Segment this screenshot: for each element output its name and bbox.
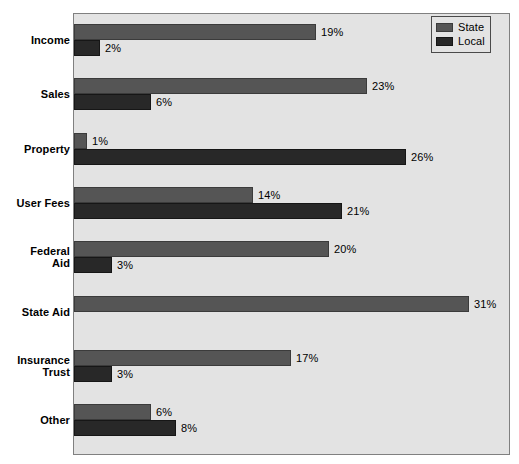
axis-label-line1: Other: [0, 414, 70, 426]
axis-label-line2: Aid: [0, 257, 70, 269]
bar-value-state-federal-aid: 20%: [334, 241, 356, 257]
axis-label-state-aid: State Aid: [0, 306, 70, 318]
legend-label-state: State: [458, 22, 484, 33]
bar-value-local-sales: 6%: [156, 94, 172, 110]
legend-item-local: Local: [436, 35, 485, 48]
bar-value-local-user-fees: 21%: [347, 203, 369, 219]
bar-state-user-fees: [74, 187, 253, 203]
axis-label-other: Other: [0, 414, 70, 426]
bar-state-other: [74, 404, 151, 420]
axis-label-property: Property: [0, 143, 70, 155]
bar-local-income: [74, 40, 100, 56]
bar-value-local-property: 26%: [411, 149, 433, 165]
axis-label-line2: Trust: [0, 366, 70, 378]
bar-state-sales: [74, 78, 367, 94]
axis-label-line1: State Aid: [0, 306, 70, 318]
axis-label-line1: Federal: [0, 245, 70, 257]
bar-value-local-other: 8%: [181, 420, 197, 436]
legend-label-local: Local: [458, 36, 485, 47]
bar-local-property: [74, 149, 406, 165]
legend-swatch-state-icon: [436, 23, 453, 32]
chart-legend: State Local: [431, 16, 491, 53]
bar-local-federal-aid: [74, 257, 112, 273]
axis-label-sales: Sales: [0, 88, 70, 100]
axis-label-line1: Income: [0, 34, 70, 46]
bar-state-income: [74, 24, 316, 40]
legend-item-state: State: [436, 21, 485, 34]
bar-state-insurance-trust: [74, 350, 291, 366]
bar-local-other: [74, 420, 176, 436]
bar-local-sales: [74, 94, 151, 110]
legend-swatch-local-icon: [436, 37, 453, 46]
bar-local-user-fees: [74, 203, 342, 219]
bar-value-state-other: 6%: [156, 404, 172, 420]
bar-value-state-income: 19%: [321, 24, 343, 40]
bar-local-insurance-trust: [74, 366, 112, 382]
bar-value-state-sales: 23%: [372, 78, 394, 94]
axis-label-line1: Property: [0, 143, 70, 155]
bar-value-local-income: 2%: [105, 40, 121, 56]
axis-label-federal-aid: FederalAid: [0, 245, 70, 269]
axis-label-user-fees: User Fees: [0, 197, 70, 209]
bar-value-state-property: 1%: [92, 133, 108, 149]
axis-label-line1: Insurance: [0, 354, 70, 366]
bar-chart: IncomeSalesPropertyUser FeesFederalAidSt…: [0, 0, 519, 464]
bar-value-state-insurance-trust: 17%: [296, 350, 318, 366]
bar-state-state-aid: [74, 296, 469, 312]
bar-value-local-federal-aid: 3%: [117, 257, 133, 273]
axis-label-income: Income: [0, 34, 70, 46]
axis-label-insurance-trust: InsuranceTrust: [0, 354, 70, 378]
axis-label-line1: User Fees: [0, 197, 70, 209]
axis-label-line1: Sales: [0, 88, 70, 100]
bar-state-federal-aid: [74, 241, 329, 257]
bar-value-state-state-aid: 31%: [474, 296, 496, 312]
bar-value-state-user-fees: 14%: [258, 187, 280, 203]
bar-value-local-insurance-trust: 3%: [117, 366, 133, 382]
bar-state-property: [74, 133, 87, 149]
